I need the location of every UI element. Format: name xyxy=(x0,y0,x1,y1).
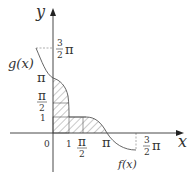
y-tick-3pi2-den: 2 xyxy=(57,50,63,60)
x-tick-pi: π xyxy=(102,135,111,150)
curve-g-label: g(x) xyxy=(8,56,34,71)
origin-label: 0 xyxy=(44,139,50,149)
y-tick-3pi2-pi: π xyxy=(65,42,74,57)
diagram-canvas: y x 0 3 2 π π π 2 1 1 π 2 π 3 2 π g(x) f… xyxy=(0,0,190,177)
y-tick-1: 1 xyxy=(40,113,46,123)
curve-f-label: f(x) xyxy=(117,158,137,171)
y-tick-pi: π xyxy=(37,70,46,85)
x-tick-pi2-num: π xyxy=(78,135,86,149)
x-tick-pi2-den: 2 xyxy=(79,149,85,159)
y-tick-pi2-num: π xyxy=(38,89,46,103)
y-tick-pi2-den: 2 xyxy=(39,103,45,113)
hatched-square xyxy=(53,117,69,133)
hatched-region-g xyxy=(53,78,69,117)
x-tick-3pi2-den: 2 xyxy=(144,147,150,157)
y-axis-arrow-icon xyxy=(50,8,56,16)
x-tick-3pi2-pi: π xyxy=(152,138,161,153)
x-tick-3pi2-num: 3 xyxy=(144,135,150,145)
x-tick-1: 1 xyxy=(66,139,72,149)
y-tick-3pi2-num: 3 xyxy=(57,38,63,48)
y-axis-label: y xyxy=(35,2,46,21)
x-axis-label: x xyxy=(178,132,187,151)
